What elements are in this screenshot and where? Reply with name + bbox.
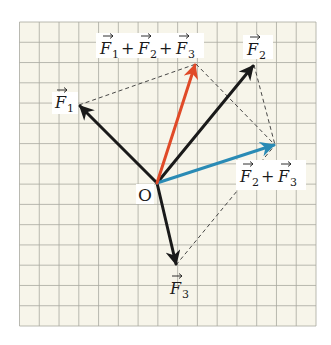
label-f2f3-plus: + xyxy=(261,167,274,186)
label-resultant-plus2: + xyxy=(159,39,172,58)
label-resultant-f3: F xyxy=(175,39,188,58)
origin-label: O xyxy=(138,185,152,205)
label-f2f3-f2: F xyxy=(239,167,252,186)
vector-addition-diagram: F 1 F 2 F 3 F 1 + F 2 + F 3 xyxy=(0,0,331,345)
label-resultant: F 1 + F 2 + F 3 xyxy=(96,33,204,61)
label-f3: F 3 xyxy=(167,273,195,301)
label-f2-sub: 2 xyxy=(259,49,266,62)
label-resultant-f2: F xyxy=(137,39,150,58)
label-f2-plus-f3: F 2 + F 3 xyxy=(236,160,306,190)
label-resultant-sub3: 3 xyxy=(188,48,195,61)
label-f1-base: F xyxy=(54,93,67,112)
label-resultant-sub2: 2 xyxy=(150,48,157,61)
label-f2f3-f3: F xyxy=(277,167,290,186)
label-resultant-f1: F xyxy=(99,39,112,58)
label-f2f3-sub2: 2 xyxy=(252,176,259,189)
label-f2-base: F xyxy=(246,40,259,59)
label-resultant-sub1: 1 xyxy=(112,48,119,61)
label-f2f3-sub3: 3 xyxy=(290,176,297,189)
label-f1-sub: 1 xyxy=(67,102,74,115)
label-f2: F 2 xyxy=(243,35,273,63)
label-f3-sub: 3 xyxy=(182,288,189,301)
label-f3-base: F xyxy=(169,279,182,298)
label-resultant-plus1: + xyxy=(121,39,134,58)
label-origin: O xyxy=(136,184,154,205)
